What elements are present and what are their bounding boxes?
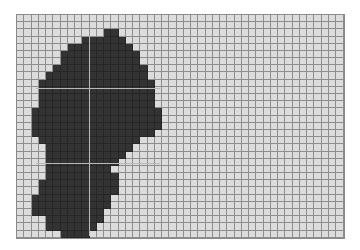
grid-cell-filled[interactable] xyxy=(126,123,133,130)
grid-cell-filled[interactable] xyxy=(75,108,82,115)
grid-cell-filled[interactable] xyxy=(82,144,89,151)
grid-cell-empty[interactable] xyxy=(24,195,31,202)
grid-cell-empty[interactable] xyxy=(278,152,285,159)
grid-cell-empty[interactable] xyxy=(17,137,24,144)
grid-cell-empty[interactable] xyxy=(285,108,292,115)
grid-cell-filled[interactable] xyxy=(97,72,104,79)
grid-cell-empty[interactable] xyxy=(140,29,147,36)
grid-cell-filled[interactable] xyxy=(126,130,133,137)
grid-cell-empty[interactable] xyxy=(235,187,242,194)
grid-cell-empty[interactable] xyxy=(206,123,213,130)
grid-cell-filled[interactable] xyxy=(68,72,75,79)
grid-cell-empty[interactable] xyxy=(329,216,336,223)
grid-cell-filled[interactable] xyxy=(39,187,46,194)
grid-cell-empty[interactable] xyxy=(307,44,314,51)
grid-cell-empty[interactable] xyxy=(285,123,292,130)
grid-cell-empty[interactable] xyxy=(169,116,176,123)
grid-cell-empty[interactable] xyxy=(162,209,169,216)
grid-cell-empty[interactable] xyxy=(336,137,343,144)
grid-cell-empty[interactable] xyxy=(32,15,39,22)
grid-cell-filled[interactable] xyxy=(39,209,46,216)
grid-cell-empty[interactable] xyxy=(271,116,278,123)
grid-cell-empty[interactable] xyxy=(336,209,343,216)
grid-cell-empty[interactable] xyxy=(300,87,307,94)
grid-cell-filled[interactable] xyxy=(111,144,118,151)
grid-cell-empty[interactable] xyxy=(32,152,39,159)
grid-cell-filled[interactable] xyxy=(61,101,68,108)
grid-cell-empty[interactable] xyxy=(293,22,300,29)
grid-cell-empty[interactable] xyxy=(155,65,162,72)
grid-cell-empty[interactable] xyxy=(249,137,256,144)
grid-cell-empty[interactable] xyxy=(90,29,97,36)
grid-cell-empty[interactable] xyxy=(249,80,256,87)
grid-cell-empty[interactable] xyxy=(293,144,300,151)
grid-cell-filled[interactable] xyxy=(75,137,82,144)
grid-cell-empty[interactable] xyxy=(278,29,285,36)
grid-cell-empty[interactable] xyxy=(264,173,271,180)
grid-cell-filled[interactable] xyxy=(97,144,104,151)
grid-cell-empty[interactable] xyxy=(285,51,292,58)
grid-cell-empty[interactable] xyxy=(264,72,271,79)
grid-cell-empty[interactable] xyxy=(133,166,140,173)
grid-cell-empty[interactable] xyxy=(322,130,329,137)
grid-cell-empty[interactable] xyxy=(220,209,227,216)
grid-cell-filled[interactable] xyxy=(119,108,126,115)
grid-cell-empty[interactable] xyxy=(177,72,184,79)
grid-cell-empty[interactable] xyxy=(169,180,176,187)
grid-cell-empty[interactable] xyxy=(213,37,220,44)
grid-cell-empty[interactable] xyxy=(140,37,147,44)
grid-cell-empty[interactable] xyxy=(271,187,278,194)
grid-cell-empty[interactable] xyxy=(198,202,205,209)
grid-cell-empty[interactable] xyxy=(242,123,249,130)
grid-cell-filled[interactable] xyxy=(133,65,140,72)
grid-cell-empty[interactable] xyxy=(300,180,307,187)
grid-cell-empty[interactable] xyxy=(227,51,234,58)
grid-cell-empty[interactable] xyxy=(24,209,31,216)
grid-cell-filled[interactable] xyxy=(75,101,82,108)
grid-cell-empty[interactable] xyxy=(322,231,329,238)
grid-cell-empty[interactable] xyxy=(242,87,249,94)
grid-cell-empty[interactable] xyxy=(32,159,39,166)
grid-cell-empty[interactable] xyxy=(329,44,336,51)
grid-cell-empty[interactable] xyxy=(213,166,220,173)
grid-cell-empty[interactable] xyxy=(249,72,256,79)
grid-cell-filled[interactable] xyxy=(32,209,39,216)
grid-cell-filled[interactable] xyxy=(75,87,82,94)
grid-cell-filled[interactable] xyxy=(53,94,60,101)
grid-cell-empty[interactable] xyxy=(271,101,278,108)
grid-cell-empty[interactable] xyxy=(111,209,118,216)
grid-cell-empty[interactable] xyxy=(148,22,155,29)
grid-cell-empty[interactable] xyxy=(264,44,271,51)
grid-cell-empty[interactable] xyxy=(24,22,31,29)
grid-cell-empty[interactable] xyxy=(285,195,292,202)
grid-cell-empty[interactable] xyxy=(293,101,300,108)
grid-cell-empty[interactable] xyxy=(213,137,220,144)
grid-cell-empty[interactable] xyxy=(32,29,39,36)
grid-cell-empty[interactable] xyxy=(293,216,300,223)
grid-cell-empty[interactable] xyxy=(322,87,329,94)
grid-cell-empty[interactable] xyxy=(213,223,220,230)
grid-cell-empty[interactable] xyxy=(32,58,39,65)
grid-cell-empty[interactable] xyxy=(177,15,184,22)
grid-cell-empty[interactable] xyxy=(271,144,278,151)
grid-cell-empty[interactable] xyxy=(90,22,97,29)
grid-cell-empty[interactable] xyxy=(249,173,256,180)
grid-cell-empty[interactable] xyxy=(191,144,198,151)
grid-cell-empty[interactable] xyxy=(264,108,271,115)
grid-cell-empty[interactable] xyxy=(126,152,133,159)
grid-cell-empty[interactable] xyxy=(169,173,176,180)
grid-cell-empty[interactable] xyxy=(285,58,292,65)
grid-cell-empty[interactable] xyxy=(133,216,140,223)
grid-cell-empty[interactable] xyxy=(32,101,39,108)
grid-cell-empty[interactable] xyxy=(213,123,220,130)
grid-cell-filled[interactable] xyxy=(90,166,97,173)
grid-cell-empty[interactable] xyxy=(336,144,343,151)
grid-cell-empty[interactable] xyxy=(235,108,242,115)
grid-cell-filled[interactable] xyxy=(119,58,126,65)
grid-cell-empty[interactable] xyxy=(271,137,278,144)
grid-cell-filled[interactable] xyxy=(68,80,75,87)
grid-cell-empty[interactable] xyxy=(111,195,118,202)
grid-cell-filled[interactable] xyxy=(119,37,126,44)
grid-cell-filled[interactable] xyxy=(111,180,118,187)
grid-cell-empty[interactable] xyxy=(206,101,213,108)
